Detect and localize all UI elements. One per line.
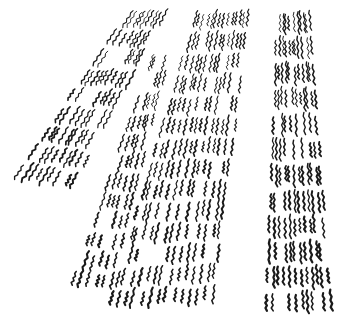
hatch-stroke [281, 63, 283, 83]
hatch-stroke [227, 34, 230, 46]
hatch-stroke [274, 91, 276, 107]
hatch-stroke [192, 267, 196, 284]
hatch-stroke [302, 291, 304, 309]
hatch-stroke [271, 294, 273, 311]
hatch-stroke [195, 289, 198, 304]
hatch-stroke [199, 15, 203, 31]
hatch-stroke [160, 9, 168, 26]
hatch-stroke [178, 268, 181, 281]
hatch-stroke [318, 193, 320, 212]
hatch-stroke [154, 186, 158, 198]
hatch-stroke [310, 220, 313, 233]
hatch-stroke [216, 200, 220, 220]
hatch-stroke [295, 269, 297, 284]
hatch-stroke [150, 226, 154, 239]
hatch-stroke [131, 117, 136, 131]
hatch-stroke [294, 190, 296, 213]
hatch-stroke [295, 89, 297, 107]
hatch-stroke [203, 286, 206, 299]
hatch-stroke [288, 16, 290, 30]
hatch-stroke [224, 139, 226, 154]
hatch-stroke [134, 96, 140, 113]
hatch-stroke [270, 194, 272, 209]
hatch-stroke [208, 264, 211, 282]
hatch-stroke [66, 130, 74, 145]
hatch-stroke [118, 216, 122, 228]
hatch-stroke [183, 139, 188, 158]
hatch-stroke [301, 270, 303, 286]
hatch-stroke [127, 11, 137, 27]
hatch-stroke [231, 139, 234, 156]
hatch-stroke [154, 266, 158, 283]
hatch-stroke [107, 29, 116, 44]
hatch-stroke [198, 74, 202, 92]
hatch-stroke [315, 117, 318, 135]
hatch-stroke [159, 181, 163, 197]
strip-center-left [71, 55, 166, 289]
hatch-stroke [308, 190, 311, 212]
hatch-stroke [243, 33, 246, 49]
hatch-stroke [86, 236, 90, 246]
hatch-stroke [218, 78, 221, 94]
hatch-stroke [192, 160, 196, 178]
hatch-stroke [314, 143, 316, 159]
hatch-stroke [202, 245, 205, 258]
hatch-stroke [83, 251, 90, 271]
hatch-stroke [112, 172, 117, 189]
hatch-stroke [212, 182, 215, 198]
hatch-stroke [162, 55, 167, 70]
hatch-stroke [209, 97, 212, 112]
hatch-stroke [76, 88, 84, 102]
hatch-stroke [226, 56, 229, 70]
hatch-stroke [190, 56, 194, 73]
hatch-stroke [188, 290, 191, 307]
hatch-stroke [177, 98, 181, 112]
hatch-stroke [305, 15, 308, 33]
hatch-stroke [151, 114, 154, 125]
hatch-stroke [297, 36, 299, 58]
hatch-stroke [206, 31, 210, 46]
hatch-stroke [217, 14, 220, 27]
hatch-stroke [312, 65, 315, 85]
hatch-stroke [98, 235, 102, 247]
hatch-stroke [293, 165, 295, 187]
hatch-stroke [277, 267, 279, 285]
hatch-stroke [112, 196, 116, 207]
hatch-stroke [153, 144, 157, 157]
hatch-stroke [52, 150, 59, 162]
hatch-stroke [320, 268, 323, 288]
hatch-stroke [179, 56, 183, 71]
hatch-stroke [289, 266, 291, 287]
hatch-stroke [76, 152, 83, 166]
hatch-stroke [157, 290, 160, 303]
hatch-stroke [96, 275, 100, 286]
hatch-stroke [166, 117, 171, 132]
hatch-stroke [187, 100, 191, 117]
hatch-stroke [170, 269, 173, 284]
hatch-stroke [116, 271, 120, 286]
hatch-stroke [146, 11, 154, 26]
hatch-stroke [226, 115, 230, 136]
hatch-stroke [272, 138, 274, 159]
hatch-stroke [272, 117, 274, 134]
hatch-stroke [164, 227, 168, 242]
hatch-stroke [166, 161, 170, 177]
hatch-stroke [112, 235, 116, 250]
hatch-stroke [221, 14, 224, 28]
hatch-stroke [183, 119, 187, 135]
hatch-stroke [231, 96, 234, 110]
hatch-stroke [170, 163, 174, 178]
hatch-stroke [148, 288, 153, 308]
hatch-stroke [294, 67, 296, 86]
hatch-stroke [310, 36, 313, 54]
hatch-stroke [305, 87, 308, 108]
hatch-stroke [195, 97, 198, 110]
hatch-stroke [269, 239, 271, 263]
hatch-stroke [177, 160, 181, 176]
hatch-stroke [130, 288, 135, 308]
hatch-stroke [278, 90, 280, 109]
hatch-stroke [154, 162, 158, 177]
hatch-stroke [283, 267, 285, 284]
hatch-stroke [214, 96, 218, 114]
hatch-stroke [284, 192, 286, 210]
